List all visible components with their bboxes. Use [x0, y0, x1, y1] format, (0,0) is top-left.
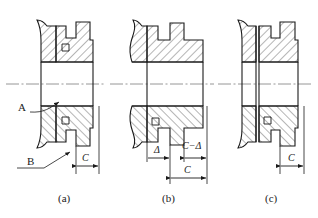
- figure-a: [6, 20, 104, 174]
- dimension-label-c-b: C: [184, 164, 191, 175]
- flange-body-c-top: [238, 20, 256, 62]
- flange-body-b-bottom: [130, 106, 147, 148]
- dimension-label-c-a: C: [82, 152, 89, 163]
- figure-caption-c: (c): [265, 192, 277, 204]
- flange-body-a-bottom: [37, 106, 56, 148]
- hub-collar-a-top: [56, 22, 93, 62]
- callout-label-b: B: [27, 155, 34, 167]
- hub-collar-a-bottom: [56, 106, 93, 146]
- dimension-label-delta-b: Δ: [154, 144, 160, 155]
- flange-body-c-bottom: [238, 106, 256, 148]
- hub-collar-c-bottom: [259, 106, 298, 146]
- figure-caption-b: (b): [162, 192, 175, 204]
- dimension-label-c-minus-delta-b: C−Δ: [182, 140, 201, 151]
- hub-collar-b-top: [147, 23, 203, 62]
- hub-collar-c-top: [259, 22, 298, 62]
- figure-caption-a: (a): [58, 192, 70, 204]
- callout-label-a: A: [18, 101, 26, 113]
- figure-b: [110, 20, 214, 184]
- flange-body-a-top: [37, 20, 56, 62]
- figure-c: [218, 20, 312, 174]
- technical-drawing-svg: [0, 0, 318, 218]
- dimension-label-c-c: C: [288, 152, 295, 163]
- drawing-canvas: A B C Δ C−Δ C C (a) (b) (c): [0, 0, 318, 218]
- leader-line-b: [17, 152, 70, 168]
- flange-body-b-top: [130, 20, 147, 62]
